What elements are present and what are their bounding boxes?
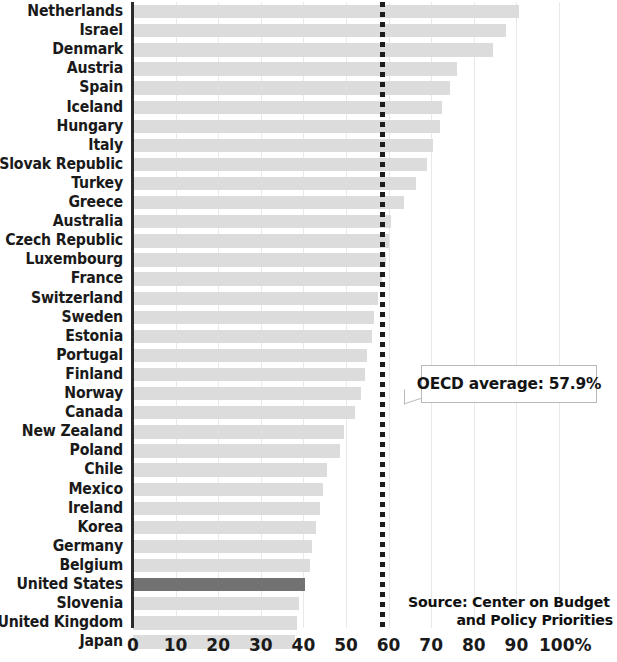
chart-row: Denmark (0, 41, 617, 60)
bar-france (133, 272, 382, 285)
bar-luxembourg (133, 253, 386, 266)
category-label-hungary: Hungary (0, 118, 123, 135)
x-tick-label-20: 20 (206, 634, 230, 656)
source-note: Source: Center on Budget and Policy Prio… (408, 594, 613, 629)
category-label-united-kingdom: United Kingdom (0, 614, 123, 631)
chart-row: United States (0, 576, 617, 595)
category-label-estonia: Estonia (0, 328, 123, 345)
chart-row: Netherlands (0, 3, 617, 22)
oecd-average-prefix: OECD average: (417, 375, 549, 393)
chart-row: Mexico (0, 481, 617, 500)
value-axis: 0102030405060708090100% (0, 630, 617, 662)
plot-area: NetherlandsIsraelDenmarkAustriaSpainIcel… (0, 0, 617, 630)
chart-row: Turkey (0, 175, 617, 194)
oecd-average-value: 57.9% (549, 375, 601, 393)
x-tick-label-100: 100% (539, 634, 592, 656)
bar-netherlands (133, 5, 519, 18)
chart-row: Poland (0, 442, 617, 461)
x-tick-label-80: 80 (462, 634, 486, 656)
x-tick-label-70: 70 (419, 634, 443, 656)
chart-row: Greece (0, 194, 617, 213)
bar-korea (133, 521, 316, 534)
chart-row: Sweden (0, 309, 617, 328)
chart-row: Canada (0, 404, 617, 423)
chart-row: Ireland (0, 500, 617, 519)
category-label-slovenia: Slovenia (0, 595, 123, 612)
chart-row: Czech Republic (0, 232, 617, 251)
category-label-slovak-republic: Slovak Republic (0, 156, 123, 173)
chart-row: Spain (0, 79, 617, 98)
category-label-canada: Canada (0, 404, 123, 421)
category-label-turkey: Turkey (0, 175, 123, 192)
category-label-germany: Germany (0, 538, 123, 555)
category-label-sweden: Sweden (0, 309, 123, 326)
bar-switzerland (133, 292, 378, 305)
category-label-denmark: Denmark (0, 41, 123, 58)
category-label-austria: Austria (0, 60, 123, 77)
bar-iceland (133, 101, 442, 114)
bar-czech-republic (133, 234, 389, 247)
chart-row: Luxembourg (0, 251, 617, 270)
chart-row: Italy (0, 137, 617, 156)
x-tick-label-30: 30 (249, 634, 273, 656)
chart-row: Germany (0, 538, 617, 557)
bar-belgium (133, 559, 310, 572)
chart-row: Hungary (0, 118, 617, 137)
source-note-line-1: Source: Center on Budget (408, 594, 613, 612)
category-label-france: France (0, 270, 123, 287)
bar-ireland (133, 502, 320, 515)
oecd-average-callout: OECD average: 57.9% (421, 365, 597, 403)
oecd-average-reference-line (380, 2, 385, 630)
category-label-poland: Poland (0, 442, 123, 459)
category-label-united-states: United States (0, 576, 123, 593)
bar-chart: NetherlandsIsraelDenmarkAustriaSpainIcel… (0, 0, 617, 662)
category-label-mexico: Mexico (0, 481, 123, 498)
category-label-portugal: Portugal (0, 347, 123, 364)
bar-greece (133, 196, 404, 209)
chart-row: Chile (0, 461, 617, 480)
chart-row: Slovak Republic (0, 156, 617, 175)
category-label-israel: Israel (0, 22, 123, 39)
x-tick-label-40: 40 (292, 634, 316, 656)
chart-row: New Zealand (0, 423, 617, 442)
bar-slovenia (133, 597, 299, 610)
category-axis-line (131, 2, 134, 628)
x-tick-label-0: 0 (127, 634, 139, 656)
category-label-italy: Italy (0, 137, 123, 154)
bar-australia (133, 215, 391, 228)
bar-mexico (133, 483, 323, 496)
category-label-norway: Norway (0, 385, 123, 402)
bar-spain (133, 81, 450, 94)
bar-poland (133, 444, 340, 457)
bar-new-zealand (133, 425, 344, 438)
chart-row: Australia (0, 213, 617, 232)
bar-finland (133, 368, 365, 381)
category-label-luxembourg: Luxembourg (0, 251, 123, 268)
source-note-line-2: and Policy Priorities (408, 612, 613, 630)
chart-row: Belgium (0, 557, 617, 576)
category-label-new-zealand: New Zealand (0, 423, 123, 440)
bar-portugal (133, 349, 367, 362)
bar-chile (133, 463, 327, 476)
category-label-chile: Chile (0, 461, 123, 478)
category-label-netherlands: Netherlands (0, 3, 123, 20)
bar-austria (133, 62, 457, 75)
chart-row: France (0, 270, 617, 289)
bar-norway (133, 387, 361, 400)
category-label-spain: Spain (0, 79, 123, 96)
category-label-czech-republic: Czech Republic (0, 232, 123, 249)
category-label-iceland: Iceland (0, 99, 123, 116)
x-tick-label-90: 90 (505, 634, 529, 656)
bar-sweden (133, 311, 374, 324)
bar-hungary (133, 120, 440, 133)
bar-italy (133, 139, 433, 152)
category-label-ireland: Ireland (0, 500, 123, 517)
category-label-australia: Australia (0, 213, 123, 230)
chart-row: Iceland (0, 99, 617, 118)
x-tick-label-60: 60 (377, 634, 401, 656)
chart-row: Switzerland (0, 290, 617, 309)
bar-denmark (133, 43, 493, 56)
category-label-finland: Finland (0, 366, 123, 383)
chart-row: Israel (0, 22, 617, 41)
category-label-greece: Greece (0, 194, 123, 211)
